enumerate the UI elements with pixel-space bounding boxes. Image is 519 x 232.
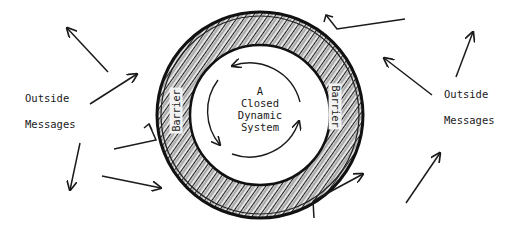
right-outside-label-line1: Outside bbox=[444, 89, 488, 100]
closed-dynamic-system-label: A Closed Dynamic System bbox=[200, 85, 320, 133]
right-outside-label-line2: Messages bbox=[444, 115, 495, 126]
center-label-line-3: Dynamic bbox=[200, 109, 320, 121]
center-label-line-1: A bbox=[200, 85, 320, 97]
center-label-line-2: Closed bbox=[200, 97, 320, 109]
center-label-line-4: System bbox=[200, 121, 320, 133]
left-outside-label-line1: Outside bbox=[25, 93, 69, 104]
left-outside-label-line2: Messages bbox=[25, 119, 76, 130]
barrier-label-left: Barrier bbox=[170, 87, 183, 133]
barrier-label-right: Barrier bbox=[329, 83, 342, 129]
outside-arrows-left bbox=[67, 28, 161, 190]
